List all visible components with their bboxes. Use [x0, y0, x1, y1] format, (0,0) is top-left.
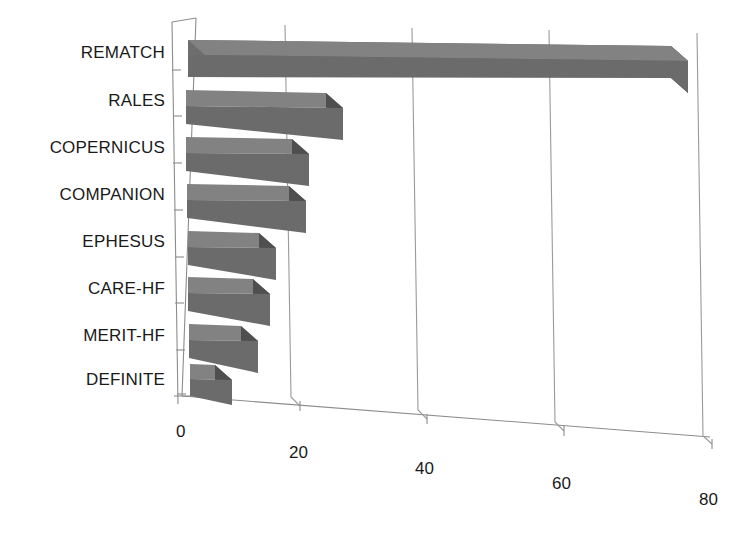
x-tick-label-60: 60: [552, 475, 571, 492]
category-label-ephesus: EPHESUS: [5, 233, 165, 250]
x-tick-label-40: 40: [415, 460, 434, 477]
y-axis-back-line: [172, 22, 178, 404]
bar-rematch: [188, 40, 688, 93]
x-tick-label-0: 0: [176, 423, 185, 440]
category-label-rales: RALES: [5, 92, 165, 109]
x-gridlines: [285, 25, 712, 444]
category-label-care-hf: CARE-HF: [5, 280, 165, 297]
category-label-rematch: REMATCH: [5, 44, 165, 61]
category-label-copernicus: COPERNICUS: [5, 139, 165, 156]
bar-definite: [190, 364, 232, 405]
axis-frame: [172, 18, 710, 437]
category-label-merit-hf: MERIT-HF: [5, 327, 165, 344]
gridline-40: [412, 28, 427, 419]
bar-care-hf: [188, 277, 270, 326]
axis-top-connector: [172, 18, 196, 22]
bar-rales: [186, 90, 343, 140]
category-label-definite: DEFINITE: [5, 371, 165, 388]
bar-copernicus: [186, 137, 309, 186]
x-tick-label-20: 20: [289, 444, 308, 461]
category-label-companion: COMPANION: [5, 186, 165, 203]
gridline-60: [549, 30, 564, 431]
chart-root: REMATCH RALES COPERNICUS COMPANION EPHES…: [0, 0, 732, 538]
bar-companion: [187, 184, 306, 233]
gridline-80: [697, 33, 712, 444]
bar-ephesus: [188, 231, 276, 280]
bar-chart-3d: [0, 0, 732, 538]
x-axis-ticks: [300, 401, 712, 449]
bars-group: [186, 40, 688, 405]
x-axis-baseline: [182, 396, 710, 437]
x-tick-label-80: 80: [699, 491, 718, 508]
